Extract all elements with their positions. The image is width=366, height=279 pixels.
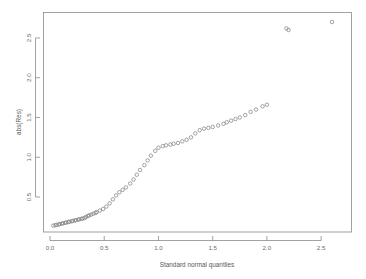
- y-axis-tick-label: 1.5: [25, 113, 32, 122]
- x-axis-tick-label: 0.0: [46, 244, 55, 251]
- y-axis-tick-label: 2.5: [25, 33, 32, 42]
- x-axis-tick-label: 2.5: [317, 244, 326, 251]
- x-axis-tick-label: 0.5: [100, 244, 109, 251]
- x-axis-tick-label: 1.0: [154, 244, 163, 251]
- y-axis-tick-label: 1.0: [25, 152, 32, 161]
- x-axis-tick-label: 2.0: [263, 244, 272, 251]
- x-axis-title: Standard normal quantiles: [160, 261, 235, 269]
- x-axis-tick-label: 1.5: [208, 244, 217, 251]
- qq-plot-figure: 0.00.51.01.52.02.5 0.51.01.52.02.5 Stand…: [0, 0, 366, 279]
- y-axis-tick-label: 0.5: [25, 192, 32, 201]
- qq-plot-canvas: 0.00.51.01.52.02.5 0.51.01.52.02.5 Stand…: [0, 0, 366, 279]
- y-axis-title: abs(Res): [15, 109, 23, 135]
- y-axis-tick-label: 2.0: [25, 73, 32, 82]
